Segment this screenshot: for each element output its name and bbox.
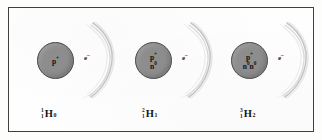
atomic-number: 1 — [142, 114, 145, 120]
isotope-label-tritium: 3 1 H 2 — [240, 108, 255, 119]
nucleus-protium: p+ — [37, 42, 74, 79]
figure-frame: p+ e– p+ — [8, 7, 314, 132]
isotope-label-row: 1 1 H 0 2 1 H 1 3 1 H 2 — [9, 108, 313, 132]
electron-label-deuterium: e– — [182, 52, 188, 62]
isotope-label-protium: 1 1 H 0 — [41, 108, 56, 119]
element-symbol: H — [244, 108, 252, 119]
atom-protium: p+ e– — [23, 14, 123, 106]
nucleus-neutron-label: n0n0 — [243, 61, 257, 70]
isotope-numbers: 3 1 — [240, 108, 243, 119]
element-symbol: H — [146, 108, 154, 119]
electron-label-protium: e– — [84, 52, 90, 62]
atom-tritium: p+ n0n0 e– — [217, 14, 317, 106]
nucleus-deuterium: p+ n0 — [135, 42, 172, 79]
atomic-number: 1 — [240, 114, 243, 120]
isotope-label-deuterium: 2 1 H 1 — [142, 108, 157, 119]
nucleus-tritium: p+ n0n0 — [231, 42, 268, 79]
isotope-numbers: 1 1 — [41, 108, 44, 119]
element-symbol: H — [45, 108, 53, 119]
label-subscript: 0 — [53, 112, 56, 118]
nucleus-proton-label: p+ — [52, 56, 59, 65]
atom-deuterium: p+ n0 e– — [121, 14, 221, 106]
label-subscript: 1 — [154, 112, 157, 118]
atomic-number: 1 — [41, 114, 44, 120]
label-subscript: 2 — [252, 112, 255, 118]
electron-label-tritium: e– — [278, 52, 284, 62]
isotope-numbers: 2 1 — [142, 108, 145, 119]
nucleus-neutron-label: n0 — [150, 61, 157, 70]
isotope-figure: p+ e– p+ — [0, 0, 322, 140]
